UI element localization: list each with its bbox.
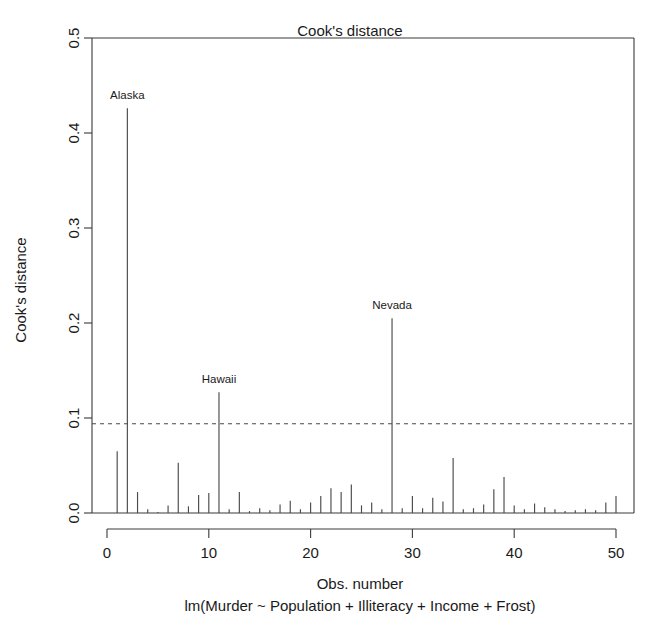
x-tick-label: 50 (608, 544, 625, 561)
x-tick-label: 40 (506, 544, 523, 561)
y-tick-label: 0.3 (65, 218, 82, 239)
x-tick-label: 30 (404, 544, 421, 561)
y-tick-label: 0.4 (65, 123, 82, 144)
plot-canvas: Cook's distance 0.00.10.20.30.40.5 Cook'… (0, 0, 669, 627)
y-tick-label: 0.0 (65, 503, 82, 524)
outlier-label-nevada: Nevada (372, 299, 412, 311)
page-title: Cook's distance (297, 22, 402, 39)
x-axis-title: Obs. number (317, 575, 404, 592)
x-tick-label: 20 (302, 544, 319, 561)
y-tick-label: 0.5 (65, 28, 82, 49)
x-tick-label: 10 (200, 544, 217, 561)
plot-background (0, 0, 669, 627)
y-axis-title: Cook's distance (12, 237, 29, 342)
x-tick-label: 0 (103, 544, 111, 561)
y-tick-label: 0.1 (65, 408, 82, 429)
outlier-label-alaska: Alaska (110, 89, 145, 101)
y-tick-label: 0.2 (65, 313, 82, 334)
model-formula-caption: lm(Murder ~ Population + Illiteracy + In… (185, 597, 536, 614)
outlier-label-hawaii: Hawaii (202, 373, 237, 385)
cooks-distance-plot: Cook's distance 0.00.10.20.30.40.5 Cook'… (0, 0, 669, 627)
